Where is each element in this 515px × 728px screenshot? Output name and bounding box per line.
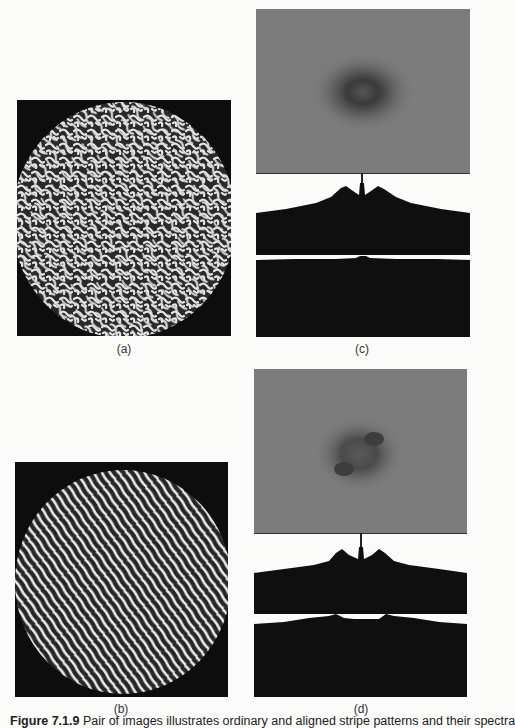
labyrinth-pattern xyxy=(17,100,231,336)
fourier-spectrum-d xyxy=(254,369,467,533)
panel-c-spectrum xyxy=(256,9,470,174)
intensity-profile-c-1 xyxy=(256,173,470,255)
panel-c-label: (c) xyxy=(347,342,377,356)
panel-d-profile-bottom xyxy=(254,614,467,697)
panel-d-spectrum xyxy=(254,369,467,534)
intensity-profile-d-2 xyxy=(254,614,467,697)
panel-c-profile-bottom xyxy=(256,256,470,337)
intensity-profile-c-2 xyxy=(256,256,470,337)
fourier-spectrum-c xyxy=(256,9,470,173)
caption-text: Pair of images illustrates ordinary and … xyxy=(83,714,515,728)
panel-d-profile-top xyxy=(254,533,467,614)
aligned-stripe-pattern xyxy=(15,462,228,697)
figure-caption: Figure 7.1.9 Pair of images illustrates … xyxy=(10,714,515,728)
panel-c-profile-top xyxy=(256,173,470,255)
panel-a-image xyxy=(17,100,231,336)
panel-a-label: (a) xyxy=(109,342,139,356)
figure-number: Figure 7.1.9 xyxy=(10,714,79,728)
panel-b-image xyxy=(15,462,228,697)
intensity-profile-d-1 xyxy=(254,533,467,614)
